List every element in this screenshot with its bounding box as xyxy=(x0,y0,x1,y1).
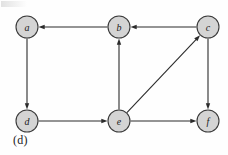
graph-node-e[interactable]: e xyxy=(108,110,130,132)
graph-node-a[interactable]: a xyxy=(16,16,38,38)
arrowhead-a-to-d xyxy=(25,103,29,109)
node-layer: abcdef xyxy=(16,16,219,132)
edge-e-to-c xyxy=(127,39,197,112)
arrowhead-e-to-b xyxy=(117,39,121,45)
arrowhead-c-to-b xyxy=(131,25,137,29)
graph-node-f[interactable]: f xyxy=(197,110,219,132)
node-label-a: a xyxy=(25,22,30,33)
figure-caption: (d) xyxy=(13,133,28,148)
edge-layer xyxy=(25,25,210,123)
node-label-e: e xyxy=(117,116,122,127)
directed-graph-canvas: abcdef xyxy=(0,0,228,155)
graph-node-c[interactable]: c xyxy=(197,16,219,38)
arrowhead-c-to-f xyxy=(206,103,210,109)
figure-container: abcdef (d) xyxy=(0,0,228,155)
arrowhead-e-to-f xyxy=(190,119,196,123)
arrowhead-b-to-a xyxy=(39,25,45,29)
graph-node-d[interactable]: d xyxy=(16,110,38,132)
graph-node-b[interactable]: b xyxy=(108,16,130,38)
node-label-b: b xyxy=(117,22,122,33)
arrowhead-d-to-e xyxy=(101,119,107,123)
node-label-c: c xyxy=(206,22,211,33)
